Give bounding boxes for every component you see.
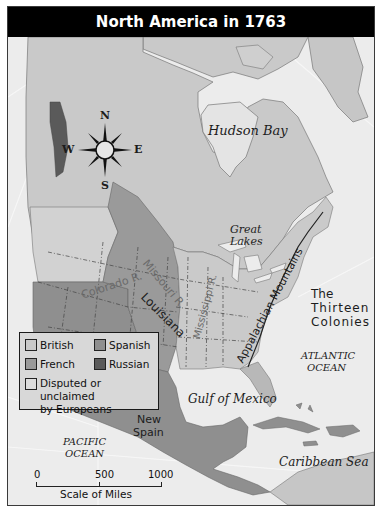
- compass-s: S: [101, 179, 109, 192]
- label-atlantic-1: ATLANTIC: [301, 350, 355, 361]
- label-caribbean: Caribbean Sea: [279, 455, 369, 469]
- scale-label: Scale of Miles: [60, 488, 132, 500]
- swatch-french: [25, 358, 37, 370]
- legend-item-russian: Russian: [94, 358, 149, 370]
- label-pacific-2: OCEAN: [65, 448, 104, 459]
- legend-item-british: British: [25, 339, 74, 351]
- scale-bar: 0 500 1000 Scale of Miles: [30, 485, 170, 506]
- swatch-russian: [94, 358, 106, 370]
- legend-item-french: French: [25, 358, 75, 370]
- north-america-map: [8, 7, 374, 505]
- label-thirteen-3: Colonies: [311, 315, 370, 329]
- label-new-spain-2: Spain: [133, 426, 164, 439]
- compass-e: E: [134, 143, 142, 156]
- scale-tick-0: 0: [34, 469, 40, 480]
- legend-label-russian: Russian: [109, 358, 149, 370]
- label-gulf-of-mexico: Gulf of Mexico: [188, 392, 277, 406]
- legend-item-spanish: Spanish: [94, 339, 150, 351]
- swatch-spanish: [94, 339, 106, 351]
- label-thirteen-1: The: [311, 287, 333, 301]
- label-great-lakes-2: Lakes: [230, 235, 263, 248]
- legend-label-spanish: Spanish: [109, 339, 150, 351]
- label-thirteen-2: Thirteen: [311, 301, 369, 315]
- disputed-northwest: [30, 207, 118, 282]
- map-title: North America in 1763: [8, 7, 374, 37]
- legend-label-disputed: Disputed or unclaimed: [40, 377, 158, 403]
- scale-tick-500: 500: [95, 469, 114, 480]
- legend-label-french: French: [40, 358, 75, 370]
- map-frame: North America in 1763: [7, 6, 375, 506]
- swatch-british: [25, 339, 37, 351]
- scale-tick-1000: 1000: [148, 469, 173, 480]
- compass-w: W: [62, 143, 74, 156]
- compass-rose: N S W E: [70, 115, 140, 185]
- legend-item-disputed: Disputed or unclaimed by Europeans: [25, 377, 158, 416]
- label-pacific-1: PACIFIC: [63, 436, 106, 447]
- compass-icon: [70, 115, 140, 185]
- legend-label-disputed-2: by Europeans: [40, 403, 158, 416]
- legend-label-british: British: [40, 339, 74, 351]
- scale-line: [36, 482, 162, 487]
- label-hudson-bay: Hudson Bay: [208, 123, 288, 138]
- compass-n: N: [100, 109, 110, 122]
- swatch-disputed: [25, 378, 37, 390]
- label-atlantic-2: OCEAN: [307, 362, 346, 373]
- map-legend: British Spanish French Russian Disputed …: [19, 332, 159, 410]
